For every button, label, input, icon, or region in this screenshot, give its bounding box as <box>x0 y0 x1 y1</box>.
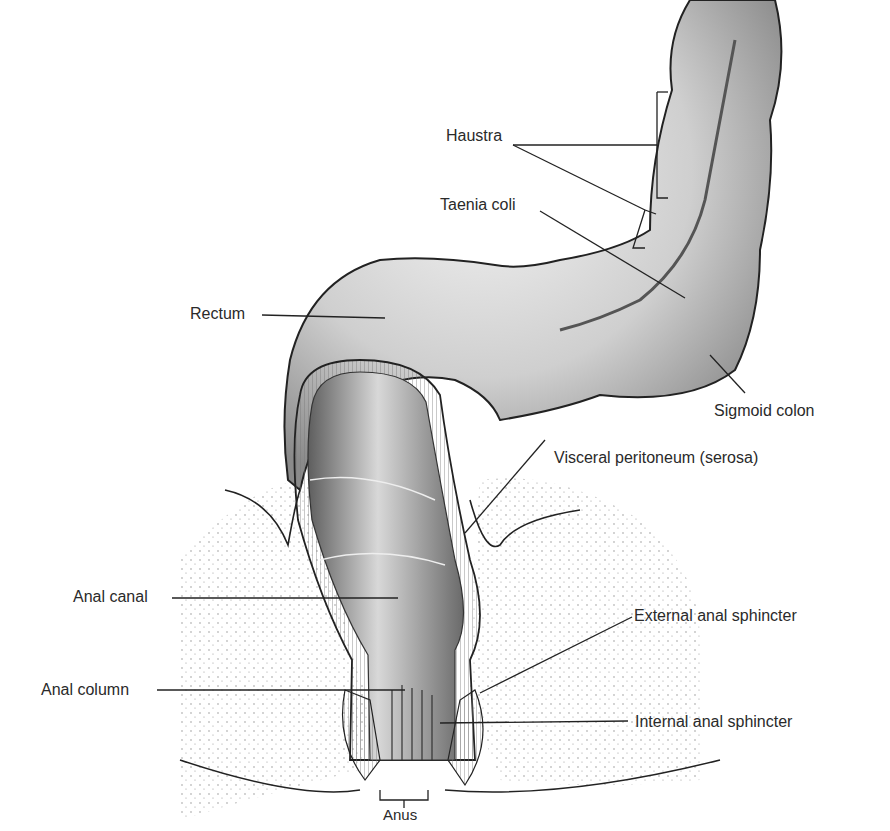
label-external-anal-sphincter: External anal sphincter <box>634 607 797 625</box>
label-rectum: Rectum <box>190 305 245 323</box>
label-taenia-coli: Taenia coli <box>440 196 516 214</box>
label-sigmoid-colon: Sigmoid colon <box>714 402 815 420</box>
label-internal-anal-sphincter: Internal anal sphincter <box>635 713 792 731</box>
label-anus: Anus <box>383 806 417 824</box>
label-visceral-peritoneum: Visceral peritoneum (serosa) <box>554 449 758 467</box>
label-anal-column: Anal column <box>41 681 129 699</box>
label-haustra: Haustra <box>446 127 502 145</box>
label-anal-canal: Anal canal <box>73 588 148 606</box>
anatomy-figure: Haustra Taenia coli Rectum Sigmoid colon… <box>0 0 890 831</box>
